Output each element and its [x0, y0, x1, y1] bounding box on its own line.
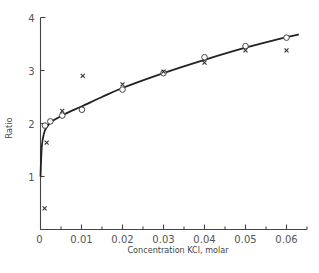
cross-marker [203, 61, 207, 65]
x-tick-label: 0.04 [193, 234, 215, 245]
cross-marker [81, 74, 85, 78]
x-tick-label: 0 [36, 234, 42, 245]
circle-marker [284, 35, 290, 41]
cross-marker [43, 206, 47, 210]
axes [41, 18, 308, 230]
circle-marker [120, 87, 126, 93]
circle-marker [42, 123, 48, 129]
y-tick-label: 2 [28, 119, 34, 130]
circle-marker [79, 107, 85, 113]
circle-marker [202, 54, 208, 60]
y-axis-title: Ratio [4, 118, 14, 139]
y-tick-label: 3 [28, 66, 34, 77]
circle-marker [243, 43, 249, 49]
axis-lines [41, 18, 308, 230]
x-axis-ticks: 00.010.020.030.040.050.06 [36, 225, 307, 246]
x-tick-label: 0.06 [275, 234, 297, 245]
circle-marker [48, 119, 54, 125]
y-tick-label: 4 [28, 13, 34, 24]
x-axis-title: Concentration KCl, molar [127, 245, 229, 255]
circle-marker [59, 113, 65, 119]
cross-marker [285, 48, 289, 52]
x-tick-label: 0.01 [70, 234, 92, 245]
data-markers [42, 35, 289, 210]
x-tick-label: 0.05 [234, 234, 256, 245]
cross-marker [121, 82, 125, 86]
cross-marker [60, 109, 64, 113]
y-tick-label: 1 [28, 172, 34, 183]
fitted-curve [41, 34, 299, 176]
x-tick-label: 0.02 [111, 234, 133, 245]
cross-marker [45, 141, 49, 145]
x-tick-label: 0.03 [152, 234, 174, 245]
ratio-vs-concentration-chart: 00.010.020.030.040.050.06 1234 Ratio Con… [0, 0, 319, 273]
